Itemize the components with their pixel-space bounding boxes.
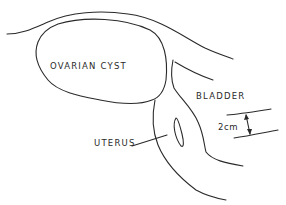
ovarian-cyst-label: OVARIAN CYST — [50, 61, 127, 71]
endometrial-stripe — [174, 118, 183, 146]
uterus-bladder-boundary — [172, 60, 243, 166]
bladder-label: BLADDER — [196, 91, 245, 101]
outer-wall-curve — [7, 12, 233, 59]
bladder-upper-wall — [175, 62, 213, 80]
uterus-left-wall — [153, 100, 226, 200]
uterus-label: UTERUS — [94, 138, 136, 148]
uterus-pointer-line — [132, 135, 167, 146]
measurement-label: 2cm — [218, 122, 238, 132]
measurement-lower-line — [234, 130, 278, 138]
measurement-arrow-icon — [244, 114, 252, 135]
measurement-upper-line — [227, 109, 271, 115]
diagram-canvas: OVARIAN CYST BLADDER UTERUS 2cm — [0, 0, 286, 205]
